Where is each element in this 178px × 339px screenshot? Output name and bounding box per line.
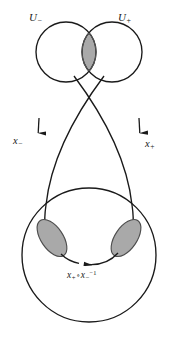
- diagram-svg: [0, 0, 178, 339]
- label-chart-plus-base: U: [118, 11, 126, 23]
- projection-curve-minus: [45, 76, 104, 241]
- label-chart-plus-subscript: +: [126, 16, 131, 25]
- base-patch-plus: [105, 214, 147, 261]
- projection-curves-group: [45, 76, 133, 241]
- label-chart-minus-subscript: −: [37, 16, 42, 25]
- label-chart-minus-base: U: [29, 11, 37, 23]
- figure-canvas: U− U+ x− x+ x+∘x−−1: [0, 0, 178, 339]
- base-circle: [22, 188, 156, 322]
- top-charts-group: [36, 22, 142, 82]
- label-chart-plus: U+: [118, 12, 131, 25]
- label-transition-composition: x+∘x−−1: [67, 270, 96, 281]
- label-map-plus: x+: [145, 139, 155, 151]
- label-map-minus-subscript: −: [18, 139, 23, 148]
- label-map-minus: x−: [13, 136, 23, 148]
- arrow-map-plus: [139, 118, 140, 133]
- base-patch-minus: [31, 214, 73, 261]
- base-patches-group: [31, 214, 147, 261]
- arrow-map-minus: [38, 118, 39, 133]
- transition-right-superscript: −1: [90, 269, 97, 276]
- label-map-plus-subscript: +: [150, 142, 155, 151]
- label-chart-minus: U−: [29, 12, 42, 25]
- projection-arrows-group: [38, 118, 140, 133]
- projection-curve-plus: [74, 76, 133, 241]
